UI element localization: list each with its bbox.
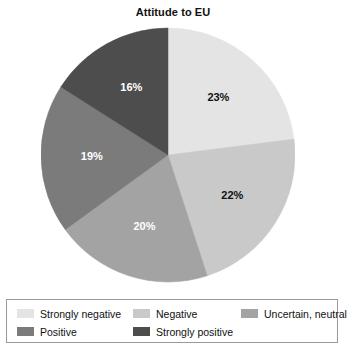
pie-plot-area: 23%22%20%19%16% bbox=[41, 27, 295, 283]
legend-label: Uncertain, neutral bbox=[264, 308, 347, 320]
legend-label: Strongly positive bbox=[156, 326, 233, 338]
legend-label: Negative bbox=[156, 308, 197, 320]
legend-swatch-icon bbox=[133, 309, 150, 318]
pie-slices-group bbox=[41, 28, 295, 282]
legend-item-strongly-positive[interactable]: Strongly positive bbox=[133, 323, 241, 340]
legend-item-strongly-negative[interactable]: Strongly negative bbox=[7, 305, 133, 322]
legend-label: Strongly negative bbox=[40, 308, 121, 320]
legend-row: Strongly negative Negative Uncertain, ne… bbox=[7, 305, 337, 322]
legend-swatch-icon bbox=[133, 327, 150, 336]
legend-swatch-icon bbox=[241, 309, 258, 318]
pie-slice-value-label: 22% bbox=[221, 189, 243, 201]
pie-slice[interactable] bbox=[168, 28, 294, 155]
legend-row: Positive Strongly positive bbox=[7, 323, 337, 340]
legend-label: Positive bbox=[40, 326, 77, 338]
legend-swatch-icon bbox=[17, 309, 34, 318]
chart-title: Attitude to EU bbox=[0, 6, 346, 18]
chart-legend: Strongly negative Negative Uncertain, ne… bbox=[6, 299, 338, 343]
pie-slice-value-label: 16% bbox=[120, 81, 142, 93]
pie-svg: 23%22%20%19%16% bbox=[41, 27, 295, 283]
pie-slice-value-label: 20% bbox=[133, 220, 155, 232]
legend-item-positive[interactable]: Positive bbox=[7, 323, 133, 340]
legend-item-uncertain-neutral[interactable]: Uncertain, neutral bbox=[241, 305, 337, 322]
pie-slice-value-label: 23% bbox=[207, 91, 229, 103]
legend-item-negative[interactable]: Negative bbox=[133, 305, 241, 322]
legend-swatch-icon bbox=[17, 327, 34, 336]
pie-slice-value-label: 19% bbox=[81, 150, 103, 162]
